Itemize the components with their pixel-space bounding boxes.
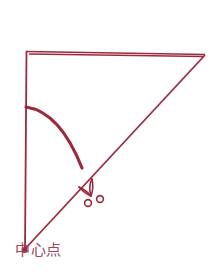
diagonal-edge (24, 55, 205, 250)
top-edge (26, 52, 205, 57)
left-edge (25, 51, 27, 250)
center-point-label: 中心点 (15, 243, 62, 258)
cut-arc (26, 107, 82, 168)
scissors-icon (79, 179, 103, 206)
folding-diagram (0, 0, 216, 275)
